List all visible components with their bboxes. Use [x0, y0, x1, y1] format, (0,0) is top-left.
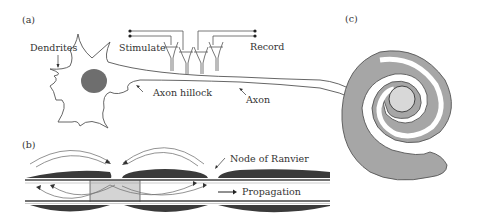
panel-c-label: (c) — [345, 13, 358, 24]
stimulate-label: Stimulate — [119, 42, 166, 53]
axon-hillock-label: Axon hillock — [152, 87, 212, 98]
record-label: Record — [250, 41, 284, 52]
panel-a: (a) — [22, 14, 357, 128]
nucleus — [81, 69, 107, 93]
myelin-spiral — [342, 51, 452, 180]
dendrites-label: Dendrites — [30, 42, 77, 53]
active-region — [90, 180, 140, 202]
node-of-ranvier-label: Node of Ranvier — [230, 153, 309, 164]
panel-c: (c) — [342, 13, 452, 180]
figure: (a) — [0, 0, 478, 219]
axon-label: Axon — [245, 94, 270, 105]
axon-core — [389, 86, 415, 112]
panel-b-label: (b) — [22, 139, 36, 150]
propagation-label: Propagation — [242, 186, 301, 197]
panel-a-label: (a) — [22, 14, 35, 25]
panel-b: (b) — [22, 139, 330, 212]
